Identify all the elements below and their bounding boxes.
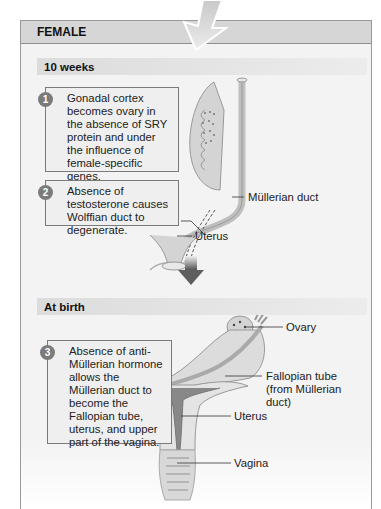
callout-3: 3 Absence of anti-Müllerian hormone allo… bbox=[47, 340, 172, 444]
label-mullerian-duct: Müllerian duct bbox=[248, 191, 318, 204]
incoming-arrow-icon bbox=[184, 0, 226, 50]
step-badge-1: 1 bbox=[38, 92, 53, 107]
label-fallopian-tube-text: Fallopian tube (from Müllerian duct) bbox=[266, 370, 341, 408]
callout-1-text: Gonadal cortex becomes ovary in the abse… bbox=[67, 92, 167, 182]
label-fallopian-tube: Fallopian tube (from Müllerian duct) bbox=[266, 370, 346, 409]
label-uterus-10wk: Uterus bbox=[195, 230, 228, 243]
callout-3-text: Absence of anti-Müllerian hormone allows… bbox=[69, 345, 163, 448]
stage-band-at-birth: At birth bbox=[37, 298, 367, 315]
step-badge-2: 2 bbox=[38, 185, 53, 200]
stage-band-10-weeks: 10 weeks bbox=[37, 58, 367, 75]
callout-2: 2 Absence of testosterone causes Wolffia… bbox=[45, 180, 179, 226]
label-vagina: Vagina bbox=[234, 457, 268, 470]
callout-1: 1 Gonadal cortex becomes ovary in the ab… bbox=[45, 87, 179, 172]
label-uterus-birth: Uterus bbox=[234, 410, 267, 423]
step-badge-3: 3 bbox=[40, 345, 55, 360]
label-ovary: Ovary bbox=[286, 321, 316, 334]
